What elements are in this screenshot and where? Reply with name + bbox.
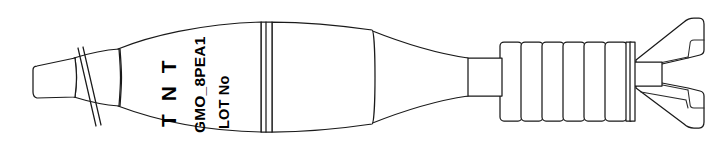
marking-lot-label: LOT No [216,75,232,129]
marking-filling-label: T N T [157,57,180,127]
rib-segment-6 [605,42,627,121]
nose-tip [33,58,77,98]
rib-segment-4 [563,42,585,121]
marking-designation-code: GMO_8PEA1 [191,36,208,133]
tail-boom-tube [466,58,502,96]
mortar-projectile-drawing: T N T GMO_8PEA1 LOT No [0,0,715,146]
rib-segment-1 [500,42,522,121]
thin-band-2 [630,42,635,121]
nose-section [74,49,121,106]
ribbed-obturator-section [500,42,635,121]
boat-tail-taper [370,30,468,124]
illustration-canvas: T N T GMO_8PEA1 LOT No [0,0,715,146]
ogive-nose-cone [118,22,261,132]
rib-segment-3 [542,42,564,121]
fin-root-shaft [634,62,662,86]
rib-segment-2 [521,42,543,121]
tail-fin-assembly [634,18,704,128]
main-body-shell [272,22,375,132]
rib-segment-5 [584,42,606,121]
